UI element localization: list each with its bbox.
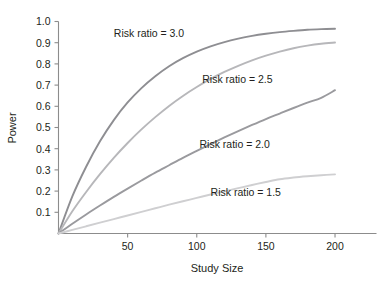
- series-annotation-label: Risk ratio = 2.5: [202, 73, 272, 85]
- series-line: [59, 174, 336, 233]
- y-axis-tick-label: 1.0: [36, 15, 51, 27]
- x-axis-tick-label: 50: [122, 240, 134, 252]
- series-line: [59, 90, 336, 233]
- y-axis-tick-label: 0.8: [36, 58, 51, 70]
- y-axis-tick-labels: 0.10.20.30.40.50.60.70.80.91.0: [36, 15, 51, 218]
- x-axis-title: Study Size: [191, 262, 244, 274]
- y-axis-tick-label: 0.4: [36, 143, 51, 155]
- y-axis-tick-label: 0.3: [36, 164, 51, 176]
- y-axis-tick-label: 0.7: [36, 79, 51, 91]
- y-axis-tick-label: 0.5: [36, 121, 51, 133]
- y-axis-tick-label: 0.9: [36, 37, 51, 49]
- chart-figure: 0.10.20.30.40.50.60.70.80.91.0 501001502…: [0, 0, 392, 282]
- tick-marks: [55, 22, 336, 238]
- y-axis-title: Power: [6, 112, 18, 144]
- y-axis-tick-label: 0.6: [36, 100, 51, 112]
- series-annotation-label: Risk ratio = 1.5: [211, 186, 281, 198]
- y-axis-tick-label: 0.1: [36, 206, 51, 218]
- series-line: [59, 29, 336, 234]
- x-axis-tick-labels: 50100150200: [122, 240, 344, 252]
- x-axis-tick-label: 150: [257, 240, 275, 252]
- x-axis-tick-label: 200: [326, 240, 344, 252]
- power-vs-study-size-chart: 0.10.20.30.40.50.60.70.80.91.0 501001502…: [0, 0, 392, 282]
- series-annotation-label: Risk ratio = 3.0: [114, 27, 184, 39]
- series-annotation-label: Risk ratio = 2.0: [200, 138, 270, 150]
- series-lines: [59, 29, 336, 234]
- y-axis-tick-label: 0.2: [36, 185, 51, 197]
- x-axis-tick-label: 100: [188, 240, 206, 252]
- series-annotations: Risk ratio = 3.0Risk ratio = 2.5Risk rat…: [114, 27, 281, 198]
